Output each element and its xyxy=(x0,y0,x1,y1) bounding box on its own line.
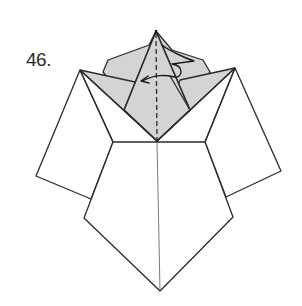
origami-diagram xyxy=(0,0,302,306)
center-point xyxy=(156,140,159,143)
apex-point xyxy=(155,30,158,33)
